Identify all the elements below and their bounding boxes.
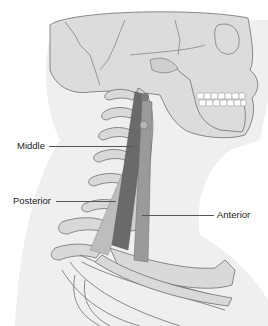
label-anterior: Anterior: [217, 210, 250, 220]
leader-line-anterior: [142, 215, 214, 216]
leader-line-middle: [49, 146, 134, 147]
vertebral-node: [141, 93, 149, 101]
leader-line-posterior: [56, 201, 116, 202]
label-posterior: Posterior: [13, 196, 51, 206]
scalene-anatomy-illustration: [0, 0, 268, 326]
label-middle: Middle: [17, 141, 45, 151]
vertebral-node: [140, 121, 148, 129]
